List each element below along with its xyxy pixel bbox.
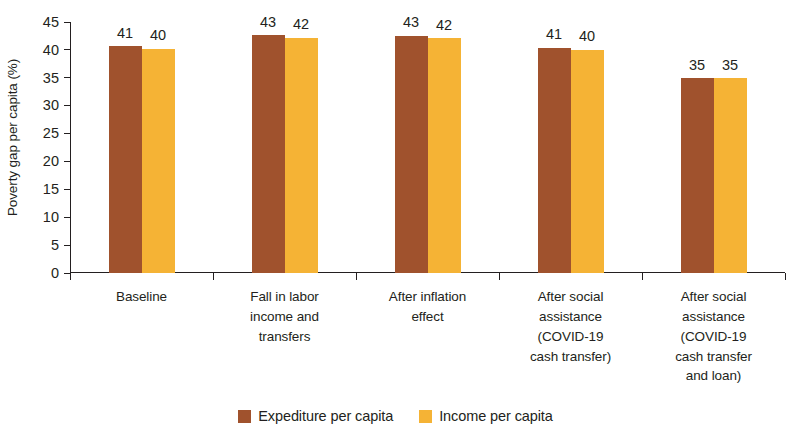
x-axis-category-label-line: After social bbox=[642, 287, 785, 307]
x-axis-category-label-line: After inflation bbox=[356, 287, 499, 307]
bar[interactable]: 43 bbox=[252, 35, 285, 273]
bar-pair: 4140 bbox=[70, 22, 213, 273]
bar-pair: 3535 bbox=[642, 22, 785, 273]
legend-swatch bbox=[419, 410, 432, 423]
bar-group: 3535 bbox=[642, 22, 785, 273]
x-axis-category-label: After socialassistance(COVID-19cash tran… bbox=[499, 287, 642, 366]
x-axis-category-label: Fall in laborincome andtransfers bbox=[213, 287, 356, 347]
y-axis-tick-label: 45 bbox=[43, 15, 64, 30]
legend-label: Income per capita bbox=[439, 409, 553, 424]
bar-value-label: 41 bbox=[546, 27, 562, 42]
y-axis-tick-label: 0 bbox=[51, 266, 64, 281]
y-axis-tick-label: 15 bbox=[43, 182, 64, 197]
bar[interactable]: 40 bbox=[571, 50, 604, 273]
x-axis-category-label-line: assistance bbox=[642, 307, 785, 327]
bar-value-label: 40 bbox=[150, 28, 166, 43]
x-axis-category-label-line: cash transfer bbox=[642, 347, 785, 367]
legend-swatch bbox=[238, 410, 251, 423]
bar-value-label: 35 bbox=[722, 58, 738, 73]
x-axis-category-label-line: cash transfer) bbox=[499, 347, 642, 367]
bar-value-label: 35 bbox=[689, 58, 705, 73]
x-axis-category-label: Baseline bbox=[70, 287, 213, 307]
x-axis-tick-mark bbox=[499, 273, 500, 280]
bar-pair: 4342 bbox=[356, 22, 499, 273]
plot-area: 051015202530354045 41404342434241403535 bbox=[70, 22, 785, 273]
x-axis-category-label: After socialassistance(COVID-19cash tran… bbox=[642, 287, 785, 386]
bar[interactable]: 35 bbox=[681, 78, 714, 273]
x-axis-category-label-line: transfers bbox=[213, 327, 356, 347]
y-axis-tick-label: 5 bbox=[51, 238, 64, 253]
y-axis-title: Poverty gap per capita (%) bbox=[0, 0, 26, 275]
bar[interactable]: 35 bbox=[714, 78, 747, 273]
bar-group: 4342 bbox=[213, 22, 356, 273]
bar[interactable]: 42 bbox=[428, 38, 461, 273]
x-axis-category-label-line: effect bbox=[356, 307, 499, 327]
poverty-gap-bar-chart: Poverty gap per capita (%) 0510152025303… bbox=[0, 0, 791, 440]
x-axis-category-label: After inflationeffect bbox=[356, 287, 499, 327]
bar[interactable]: 40 bbox=[142, 49, 175, 273]
x-axis-tick-mark bbox=[213, 273, 214, 280]
y-axis-tick-label: 40 bbox=[43, 43, 64, 58]
bar-pair: 4140 bbox=[499, 22, 642, 273]
chart-legend: Expediture per capitaIncome per capita bbox=[0, 409, 791, 424]
bar-value-label: 43 bbox=[260, 15, 276, 30]
bar-value-label: 42 bbox=[436, 18, 452, 33]
legend-item[interactable]: Expediture per capita bbox=[238, 409, 393, 424]
bar-value-label: 43 bbox=[403, 15, 419, 30]
x-axis-category-label-line: After social bbox=[499, 287, 642, 307]
bar-value-label: 40 bbox=[579, 29, 595, 44]
x-axis-category-label-line: (COVID-19 bbox=[499, 327, 642, 347]
bar-value-label: 42 bbox=[293, 17, 309, 32]
bar[interactable]: 41 bbox=[109, 46, 142, 273]
bar[interactable]: 43 bbox=[395, 36, 428, 273]
bar[interactable]: 41 bbox=[538, 48, 571, 273]
x-axis-tick-mark bbox=[642, 273, 643, 280]
x-axis-tick-mark bbox=[356, 273, 357, 280]
y-axis-tick-label: 20 bbox=[43, 154, 64, 169]
x-axis-tick-mark bbox=[785, 273, 786, 280]
bar[interactable]: 42 bbox=[285, 38, 318, 273]
legend-label: Expediture per capita bbox=[258, 409, 393, 424]
y-axis-tick-label: 30 bbox=[43, 98, 64, 113]
x-axis-category-label-line: assistance bbox=[499, 307, 642, 327]
x-axis-tick-mark bbox=[70, 273, 71, 280]
y-axis-title-text: Poverty gap per capita (%) bbox=[6, 59, 21, 216]
bar-group: 4342 bbox=[356, 22, 499, 273]
y-axis-tick-label: 25 bbox=[43, 126, 64, 141]
bar-group: 4140 bbox=[499, 22, 642, 273]
y-axis-tick-label: 35 bbox=[43, 71, 64, 86]
x-axis-category-label-line: (COVID-19 bbox=[642, 327, 785, 347]
x-axis-category-label-line: and loan) bbox=[642, 366, 785, 386]
x-axis-category-label-line: Baseline bbox=[70, 287, 213, 307]
bar-group: 4140 bbox=[70, 22, 213, 273]
y-axis-tick-label: 10 bbox=[43, 210, 64, 225]
legend-item[interactable]: Income per capita bbox=[419, 409, 553, 424]
x-axis-category-label-line: income and bbox=[213, 307, 356, 327]
bar-pair: 4342 bbox=[213, 22, 356, 273]
x-axis-category-label-line: Fall in labor bbox=[213, 287, 356, 307]
bar-value-label: 41 bbox=[117, 26, 133, 41]
